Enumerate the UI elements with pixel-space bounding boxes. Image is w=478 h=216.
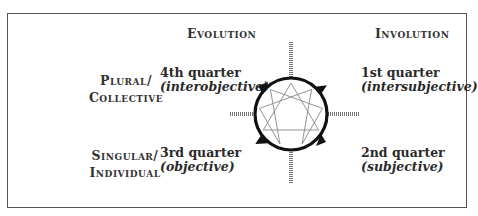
clockwise-arrows <box>255 82 327 146</box>
axis-bottom <box>289 151 293 184</box>
enneagram-star-icon <box>260 83 323 144</box>
axis-right <box>328 112 360 116</box>
axis-top <box>289 41 293 78</box>
axis-left <box>230 112 255 116</box>
